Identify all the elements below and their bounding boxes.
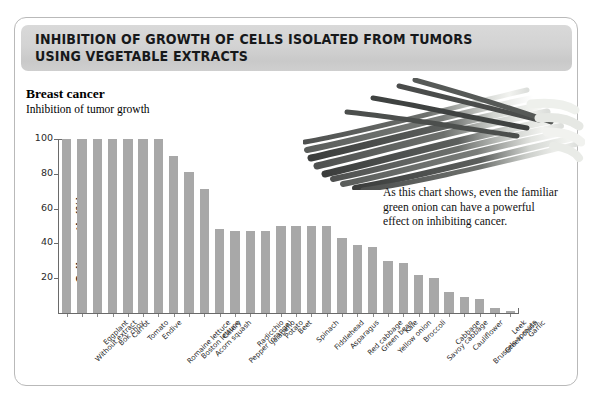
x-tick-mark: [174, 314, 175, 317]
bar-group: [59, 139, 518, 313]
x-tick-mark: [266, 314, 267, 317]
bar: [307, 226, 316, 313]
header-band: INHIBITION OF GROWTH OF CELLS ISOLATED F…: [21, 25, 572, 71]
chart-title: Breast cancer: [26, 86, 105, 102]
x-tick-mark: [189, 314, 190, 317]
x-tick-mark: [510, 314, 511, 317]
chart-axes: 20406080100: [58, 139, 518, 313]
bar: [337, 238, 346, 313]
x-tick-mark: [480, 314, 481, 317]
bar: [154, 139, 163, 313]
x-tick-mark: [449, 314, 450, 317]
bar: [93, 139, 102, 313]
y-tick-label: 100: [35, 132, 53, 143]
x-tick-mark: [296, 314, 297, 317]
x-tick-mark: [434, 314, 435, 317]
bar: [475, 299, 484, 313]
bar: [77, 139, 86, 313]
bar: [399, 263, 408, 313]
x-tick-mark: [419, 314, 420, 317]
x-tick-mark: [113, 314, 114, 317]
bar: [123, 139, 132, 313]
bar: [368, 247, 377, 313]
y-tick-label: 80: [41, 167, 53, 178]
bar: [291, 226, 300, 313]
bar: [353, 245, 362, 313]
bar: [414, 275, 423, 313]
page-root: INHIBITION OF GROWTH OF CELLS ISOLATED F…: [0, 0, 594, 404]
bar: [246, 231, 255, 313]
x-tick-mark: [403, 314, 404, 317]
x-tick-mark: [281, 314, 282, 317]
x-tick-mark: [67, 314, 68, 317]
x-tick-mark: [220, 314, 221, 317]
x-tick-mark: [250, 314, 251, 317]
x-tick-mark: [97, 314, 98, 317]
x-tick-mark: [158, 314, 159, 317]
x-tick-mark: [204, 314, 205, 317]
bar: [184, 172, 193, 313]
x-tick-mark: [342, 314, 343, 317]
x-tick-mark: [311, 314, 312, 317]
bar: [215, 229, 224, 313]
bar: [276, 226, 285, 313]
x-tick-mark: [495, 314, 496, 317]
bar: [200, 189, 209, 313]
bar: [383, 261, 392, 313]
bar: [460, 297, 469, 313]
x-tick-mark: [143, 314, 144, 317]
bar: [490, 308, 499, 313]
bar: [230, 231, 239, 313]
x-tick-mark: [464, 314, 465, 317]
bar: [261, 231, 270, 313]
chart-plot-area: Cell growth (%) 20406080100 Without extr…: [28, 130, 548, 390]
page-title: INHIBITION OF GROWTH OF CELLS ISOLATED F…: [35, 31, 519, 65]
bar: [322, 226, 331, 313]
bar: [108, 139, 117, 313]
bar: [444, 292, 453, 313]
x-axis-label-group: Without extractEggplantBok choyCarrotTom…: [57, 318, 577, 390]
bar: [506, 311, 515, 313]
x-axis-right-cap: [518, 308, 519, 314]
chart-subtitle: Inhibition of tumor growth: [26, 103, 150, 115]
bar: [62, 139, 71, 313]
y-tick-label: 60: [41, 202, 53, 213]
y-tick-label: 40: [41, 236, 53, 247]
x-tick-mark: [235, 314, 236, 317]
x-tick-mark: [373, 314, 374, 317]
bar: [429, 278, 438, 313]
x-tick-mark: [357, 314, 358, 317]
x-tick-mark: [82, 314, 83, 317]
y-tick-label: 20: [41, 271, 53, 282]
x-tick-mark: [128, 314, 129, 317]
bar: [169, 156, 178, 313]
x-tick-mark: [327, 314, 328, 317]
x-tick-mark: [388, 314, 389, 317]
bar: [138, 139, 147, 313]
